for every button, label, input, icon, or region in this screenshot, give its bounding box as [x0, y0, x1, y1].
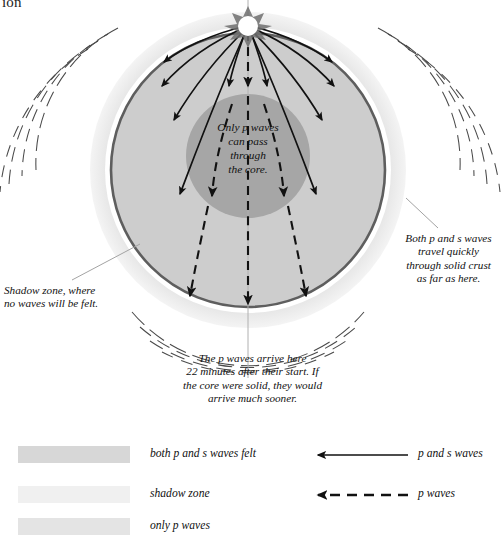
legend-row-key-1: p waves [0, 486, 503, 508]
legend-label-p-waves: p waves [418, 487, 455, 500]
annotation-core: Only p waves can pass through the core. [178, 120, 318, 176]
annotation-arrival-time: The p waves arrive here 22 minutes after… [120, 352, 385, 406]
legend-label-only-p-waves: only p waves [150, 519, 210, 532]
annotation-shadow-zone: Shadow zone, where no waves will be felt… [4, 284, 174, 311]
legend: both p and s waves felt shadow zone only… [0, 432, 503, 541]
legend-arrow-dashed [310, 486, 410, 504]
legend-row-key-0: p and s waves [0, 446, 503, 468]
legend-label-p-and-s-waves: p and s waves [418, 447, 483, 460]
crust-leader-line [406, 198, 438, 228]
annotation-crust: Both p and s waves travel quickly throug… [396, 232, 501, 286]
legend-row-zone-2: only p waves [0, 518, 503, 540]
legend-swatch-only-p-waves [18, 518, 130, 535]
legend-arrow-solid [310, 446, 410, 464]
